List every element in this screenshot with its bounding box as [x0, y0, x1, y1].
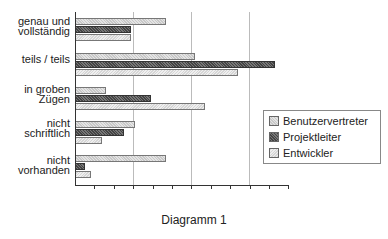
- chart-title: Diagramm 1: [0, 213, 388, 227]
- tick: [269, 185, 270, 189]
- category-label-nicht-vorhanden: nichtvorhanden: [18, 155, 70, 175]
- y-axis: [75, 12, 76, 186]
- bar: [75, 53, 195, 60]
- legend-item-benutzervertreter: Benutzervertreter: [269, 115, 368, 127]
- category-label-groben: in grobenZügen: [24, 84, 70, 104]
- bar: [75, 155, 166, 162]
- bar: [75, 103, 205, 110]
- bar: [75, 171, 91, 178]
- bar: [75, 95, 151, 102]
- swatch-icon: [269, 148, 279, 158]
- category-label-nicht-schriftlich: nichtschriftlich: [24, 118, 70, 138]
- bar: [75, 34, 131, 41]
- legend: Benutzervertreter Projektleiter Entwickl…: [263, 110, 381, 164]
- bar: [75, 61, 275, 68]
- bar: [75, 121, 135, 128]
- tick: [250, 185, 251, 189]
- x-axis: [75, 185, 289, 186]
- tick: [172, 185, 173, 189]
- category-label-genau: genau undvollständig: [18, 16, 70, 36]
- tick: [94, 185, 95, 189]
- gridline: [191, 12, 192, 185]
- swatch-icon: [269, 116, 279, 126]
- bar: [75, 163, 85, 170]
- bar: [75, 137, 102, 144]
- tick: [191, 185, 192, 189]
- bar: [75, 26, 131, 33]
- bar: [75, 87, 106, 94]
- tick: [230, 185, 231, 189]
- tick: [288, 185, 289, 189]
- legend-item-projektleiter: Projektleiter: [269, 131, 341, 143]
- gridline: [249, 12, 250, 185]
- legend-item-entwickler: Entwickler: [269, 147, 333, 159]
- tick: [133, 185, 134, 189]
- bar: [75, 69, 238, 76]
- tick: [114, 185, 115, 189]
- tick: [153, 185, 154, 189]
- chart: genau undvollständig teils / teils in gr…: [0, 0, 388, 239]
- category-label-teils: teils / teils: [22, 54, 70, 64]
- bar: [75, 18, 166, 25]
- tick: [211, 185, 212, 189]
- bar: [75, 129, 124, 136]
- swatch-icon: [269, 132, 279, 142]
